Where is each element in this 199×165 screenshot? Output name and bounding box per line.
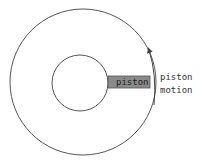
piston-label: piston [116, 77, 149, 87]
piston-diagram: piston piston motion [0, 0, 199, 165]
motion-label-line1: piston [160, 72, 193, 82]
inner-circle [52, 55, 108, 111]
motion-label-line2: motion [160, 85, 193, 95]
